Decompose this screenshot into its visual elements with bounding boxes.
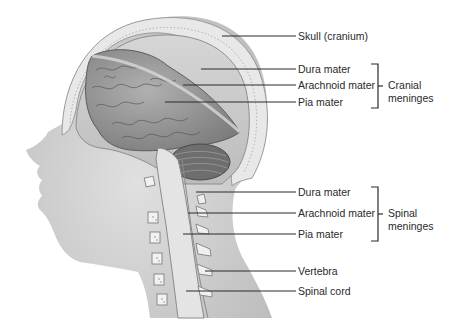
cranial-meninges-line2: meninges <box>388 92 434 105</box>
label-vertebra: Vertebra <box>298 265 338 277</box>
label-cranial-dura-mater: Dura mater <box>298 63 351 75</box>
label-spinal-pia-mater: Pia mater <box>298 228 343 240</box>
label-spinal-dura-mater: Dura mater <box>298 186 351 198</box>
spinal-meninges-line2: meninges <box>388 220 434 233</box>
head-sagittal-illustration <box>0 0 471 330</box>
cranial-meninges-line1: Cranial <box>388 79 434 92</box>
label-cranial-arachnoid-mater: Arachnoid mater <box>298 79 375 91</box>
label-spinal-cord: Spinal cord <box>298 285 351 297</box>
label-cranial-meninges: Cranial meninges <box>388 79 434 104</box>
label-spinal-arachnoid-mater: Arachnoid mater <box>298 207 375 219</box>
label-cranial-pia-mater: Pia mater <box>298 96 343 108</box>
label-skull: Skull (cranium) <box>298 30 368 42</box>
spinal-meninges-line1: Spinal <box>388 207 434 220</box>
label-spinal-meninges: Spinal meninges <box>388 207 434 232</box>
